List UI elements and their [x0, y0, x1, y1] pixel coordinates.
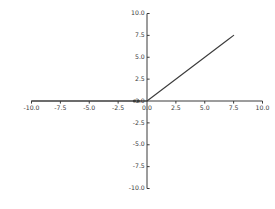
y-tick-label: -5.0 — [133, 140, 145, 147]
y-tick-label: -7.5 — [133, 162, 145, 169]
x-tick-label: 2.5 — [171, 104, 181, 111]
y-tick-label: 10.0 — [131, 9, 145, 16]
y-tick-label: 2.5 — [135, 75, 145, 82]
x-tick-label: 7.5 — [229, 104, 239, 111]
x-tick-label: -2.5 — [112, 104, 124, 111]
x-tick-label: 0.0 — [142, 104, 152, 111]
chart-figure: -10.0-7.5-5.0-2.50.02.55.07.510.0 -10.0-… — [0, 0, 275, 209]
x-tick-label: -7.5 — [54, 104, 66, 111]
y-tick-label: -2.5 — [133, 119, 145, 126]
y-tick-label: 5.0 — [135, 53, 145, 60]
x-tick-label: 5.0 — [200, 104, 210, 111]
relu-plot-svg: -10.0-7.5-5.0-2.50.02.55.07.510.0 -10.0-… — [0, 0, 275, 209]
y-tick-label: 7.5 — [135, 31, 145, 38]
x-tick-label: -5.0 — [83, 104, 95, 111]
y-tick-label: -10.0 — [129, 184, 145, 191]
x-tick-label: 10.0 — [256, 104, 270, 111]
x-tick-label: -10.0 — [23, 104, 39, 111]
y-tick-label: 0.0 — [135, 97, 145, 104]
x-tick-labels: -10.0-7.5-5.0-2.50.02.55.07.510.0 — [23, 104, 269, 111]
